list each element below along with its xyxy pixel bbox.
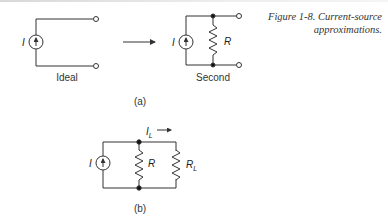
terminal-icon: [94, 64, 99, 69]
second-bottom-wire: [186, 49, 236, 65]
load-resistor-label: RL: [186, 159, 197, 172]
second-approximation-circuit: [179, 14, 242, 68]
junction-dot-icon: [211, 14, 215, 18]
ideal-source-label: I: [22, 37, 25, 48]
resistor-label: R: [148, 158, 155, 169]
terminal-icon: [237, 63, 242, 68]
ideal-caption: Ideal: [56, 72, 78, 83]
junction-dot-icon: [211, 63, 215, 67]
load-circuit: [96, 140, 180, 190]
panel-b-label: (b): [134, 203, 146, 214]
figure-caption-line2: approximations.: [262, 23, 382, 36]
figure-caption-line1: Figure 1-8. Current-source: [262, 10, 382, 23]
second-source-label: I: [172, 37, 175, 48]
second-caption: Second: [196, 72, 230, 83]
resistor-rl-icon: [172, 150, 180, 180]
resistor-r-icon: [209, 16, 217, 65]
ideal-current-source-circuit: [29, 17, 99, 69]
resistor-r-icon: [135, 142, 143, 188]
second-resistor-label: R: [224, 36, 231, 47]
terminal-icon: [237, 14, 242, 19]
load-current-label: IL: [146, 126, 153, 139]
panel-a-label: (a): [134, 96, 146, 107]
ideal-top-wire: [36, 19, 93, 35]
figure-caption: Figure 1-8. Current-source approximation…: [262, 10, 382, 36]
source-label: I: [89, 158, 92, 169]
junction-dot-icon: [137, 186, 141, 190]
ideal-bottom-wire: [36, 49, 93, 66]
second-top-wire: [186, 16, 236, 35]
junction-dot-icon: [137, 140, 141, 144]
terminal-icon: [94, 17, 99, 22]
